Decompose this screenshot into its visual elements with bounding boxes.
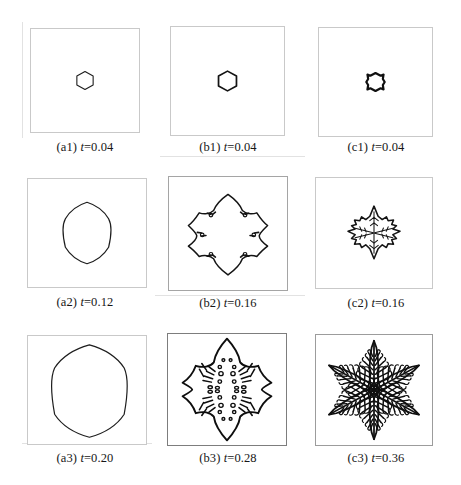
panel-b1 <box>170 26 285 136</box>
caption-b2-time: =0.16 <box>227 296 256 310</box>
panel-a2 <box>27 178 147 288</box>
caption-c3-time: =0.36 <box>375 451 404 465</box>
caption-a3-time: =0.20 <box>84 451 113 465</box>
caption-c2-time: =0.16 <box>375 296 404 310</box>
caption-c3-label: (c3) <box>348 451 369 465</box>
panel-c3 <box>315 334 433 446</box>
caption-c1-time: =0.04 <box>375 140 404 154</box>
panel-c1-crystal <box>318 27 433 137</box>
figure-root: (a1) t=0.04 (b1) t=0.04 (c1) t=0.04 <box>0 0 461 485</box>
caption-c1: (c1) t=0.04 <box>306 140 446 154</box>
panel-a1 <box>30 28 140 133</box>
caption-b2-label: (b2) <box>199 296 220 310</box>
caption-a1-label: (a1) <box>57 140 78 154</box>
caption-a3-label: (a3) <box>57 451 78 465</box>
caption-a2-time: =0.12 <box>84 295 113 309</box>
caption-a1: (a1) t=0.04 <box>15 140 155 154</box>
scan-line-artifact-left <box>22 22 23 138</box>
caption-b3-label: (b3) <box>199 451 220 465</box>
caption-b1: (b1) t=0.04 <box>158 140 298 154</box>
panel-b2-crystal <box>168 176 288 291</box>
panel-c1 <box>318 27 433 137</box>
caption-c2-label: (c2) <box>348 296 369 310</box>
panel-a3 <box>27 335 147 445</box>
caption-b1-label: (b1) <box>199 140 220 154</box>
panel-b2 <box>168 176 288 291</box>
scan-line-artifact-row2 <box>160 156 305 157</box>
caption-c1-label: (c1) <box>348 140 369 154</box>
panel-c2-crystal <box>315 177 433 289</box>
panel-c2 <box>315 177 433 289</box>
caption-c2: (c2) t=0.16 <box>306 296 446 310</box>
panel-c3-crystal <box>315 334 433 446</box>
panel-b3 <box>167 333 287 446</box>
caption-b1-time: =0.04 <box>227 140 256 154</box>
caption-a1-time: =0.04 <box>84 140 113 154</box>
caption-a2: (a2) t=0.12 <box>15 295 155 309</box>
panel-b3-crystal <box>167 333 287 446</box>
panel-b1-crystal <box>170 26 285 136</box>
caption-a2-label: (a2) <box>57 295 78 309</box>
panel-a2-crystal <box>27 178 147 288</box>
caption-b2: (b2) t=0.16 <box>158 296 298 310</box>
panel-a1-crystal <box>30 28 140 133</box>
caption-b3-time: =0.28 <box>227 451 256 465</box>
panel-a3-crystal <box>27 335 147 445</box>
caption-c3: (c3) t=0.36 <box>306 451 446 465</box>
caption-b3: (b3) t=0.28 <box>158 451 298 465</box>
caption-a3: (a3) t=0.20 <box>15 451 155 465</box>
